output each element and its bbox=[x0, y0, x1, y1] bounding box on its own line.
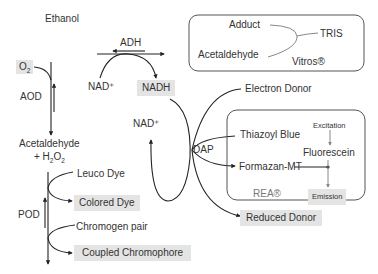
tris-curve bbox=[297, 33, 318, 36]
excitation-label: Excitation bbox=[313, 120, 346, 132]
vitros-acetaldehyde-label: Acetaldehyde bbox=[198, 49, 259, 61]
vitros-label: Vitros® bbox=[292, 56, 325, 68]
o2-curve bbox=[34, 67, 51, 80]
adduct-label: Adduct bbox=[229, 19, 260, 31]
electron-donor-label: Electron Donor bbox=[245, 83, 312, 95]
adh-label: ADH bbox=[120, 37, 141, 49]
formazan-label: Formazan-MT bbox=[239, 161, 302, 173]
rea-label: REA® bbox=[253, 188, 281, 200]
aod-label: AOD bbox=[20, 91, 42, 103]
nadh-regeneration-loop bbox=[151, 99, 190, 201]
coupled-chromophore-label: Coupled Chromophore bbox=[74, 245, 191, 261]
tris-label: TRIS bbox=[320, 28, 343, 40]
leuco-to-colored-curve bbox=[48, 172, 73, 201]
diagram-connectors bbox=[0, 0, 378, 274]
vitros-curve bbox=[268, 25, 297, 57]
nad-plus-top-label: NAD⁺ bbox=[88, 81, 114, 93]
emission-label: Emission bbox=[308, 189, 346, 205]
leuco-dye-label: Leuco Dye bbox=[77, 168, 125, 180]
o2-label: O2 bbox=[16, 60, 33, 74]
nad-to-nadh-curve bbox=[100, 54, 156, 78]
chromogen-pair-label: Chromogen pair bbox=[76, 221, 148, 233]
nadh-label: NADH bbox=[137, 80, 175, 96]
thiazoyl-blue-label: Thiazoyl Blue bbox=[240, 129, 300, 141]
nad-plus-loop-label: NAD⁺ bbox=[133, 118, 159, 130]
acetaldehyde-label: Acetaldehyde bbox=[19, 138, 80, 150]
pod-label: POD bbox=[18, 209, 40, 221]
reduced-donor-label: Reduced Donor bbox=[240, 210, 322, 226]
dap-label: DAP bbox=[193, 144, 214, 156]
h2o2-label: + H2O2 bbox=[34, 151, 65, 163]
vitros-box bbox=[189, 15, 364, 71]
chromogen-to-coupled-curve bbox=[48, 225, 75, 253]
colored-dye-label: Colored Dye bbox=[74, 195, 140, 211]
fluorescein-label: Fluorescein bbox=[303, 147, 355, 159]
diagram-canvas: Ethanol O2 AOD Acetaldehyde + H2O2 POD L… bbox=[0, 0, 378, 274]
ethanol-label: Ethanol bbox=[45, 13, 79, 25]
